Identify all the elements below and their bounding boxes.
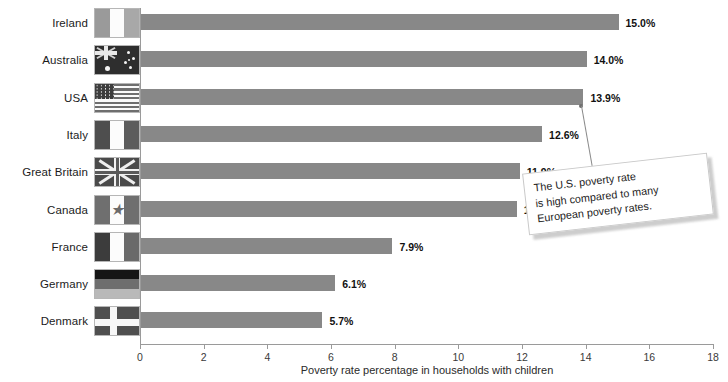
bar-value-label: 12.6%: [549, 129, 579, 141]
x-axis-tick: [522, 344, 523, 349]
x-axis-tick-label: 2: [201, 351, 207, 363]
x-axis-tick: [586, 344, 587, 349]
chart-root: IrelandAustraliaUSAItalyGreat BritainCan…: [0, 0, 728, 382]
flag-ireland: [94, 8, 140, 38]
country-label: France: [52, 241, 88, 253]
flag-denmark: [94, 306, 140, 336]
x-axis-tick-label: 18: [707, 351, 719, 363]
category-row: Denmark: [0, 304, 140, 338]
x-axis-tick: [267, 344, 268, 349]
x-axis-tick-label: 6: [328, 351, 334, 363]
category-row: Italy: [0, 118, 140, 152]
country-label: Ireland: [52, 17, 88, 29]
category-row: Australia: [0, 43, 140, 77]
x-axis-tick: [458, 344, 459, 349]
category-row: Great Britain: [0, 155, 140, 189]
category-row: USA: [0, 81, 140, 115]
bar: [141, 14, 619, 30]
x-axis-tick-label: 12: [516, 351, 528, 363]
bar-value-label: 13.9%: [590, 92, 620, 104]
bar-value-label: 5.7%: [329, 315, 353, 327]
value-axis-horizontal-line: [140, 344, 714, 345]
category-row: France: [0, 230, 140, 264]
x-axis-tick: [331, 344, 332, 349]
flag-usa: [94, 83, 140, 113]
flag-great-britain: [94, 157, 140, 187]
x-axis-tick: [140, 344, 141, 349]
category-row: Germany: [0, 267, 140, 301]
bar: [141, 89, 583, 105]
bar: [141, 275, 335, 291]
bar: [141, 201, 517, 217]
country-label: USA: [64, 92, 88, 104]
x-axis-tick-label: 14: [580, 351, 592, 363]
bar: [141, 238, 392, 254]
country-label: Germany: [40, 278, 88, 290]
category-row: Ireland: [0, 6, 140, 40]
country-label: Italy: [66, 129, 88, 141]
x-axis-tick-label: 0: [137, 351, 143, 363]
country-label: Great Britain: [22, 166, 88, 178]
bar-value-label: 7.9%: [399, 241, 423, 253]
bar: [141, 51, 587, 67]
x-axis-tick-label: 10: [452, 351, 464, 363]
x-axis-tick-label: 4: [264, 351, 270, 363]
x-axis-tick: [713, 344, 714, 349]
bar: [141, 312, 322, 328]
x-axis-title: Poverty rate percentage in households wi…: [140, 364, 714, 376]
flag-france: [94, 232, 140, 262]
x-axis-tick: [204, 344, 205, 349]
bar-value-label: 15.0%: [626, 17, 656, 29]
bar-value-label: 6.1%: [342, 278, 366, 290]
bar: [141, 126, 542, 142]
country-label: Canada: [47, 204, 88, 216]
country-label: Denmark: [41, 315, 88, 327]
x-axis-tick: [649, 344, 650, 349]
x-axis-tick: [395, 344, 396, 349]
bar-value-label: 14.0%: [594, 54, 624, 66]
x-axis-tick-label: 16: [643, 351, 655, 363]
flag-australia: [94, 45, 140, 75]
country-label: Australia: [42, 54, 88, 66]
bar: [141, 163, 520, 179]
flag-canada: ★: [94, 195, 140, 225]
x-axis-tick-label: 8: [392, 351, 398, 363]
category-row: Canada★: [0, 193, 140, 227]
flag-germany: [94, 269, 140, 299]
flag-italy: [94, 120, 140, 150]
